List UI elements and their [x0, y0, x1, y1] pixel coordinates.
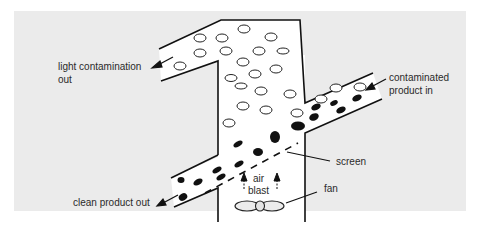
label-air: air [253, 173, 265, 184]
label-contaminated-product-in: contaminated [389, 72, 449, 83]
label-contaminated-product-in-2: product in [389, 85, 433, 96]
label-light-contamination-out-2: out [58, 74, 72, 85]
label-light-contamination-out: light contamination [58, 61, 141, 72]
label-clean-product-out: clean product out [73, 197, 150, 208]
label-blast: blast [248, 185, 269, 196]
label-screen: screen [336, 156, 366, 167]
fan-icon [235, 201, 284, 211]
separator-diagram: light contamination out contaminated pro… [0, 0, 490, 232]
label-fan: fan [324, 183, 338, 194]
